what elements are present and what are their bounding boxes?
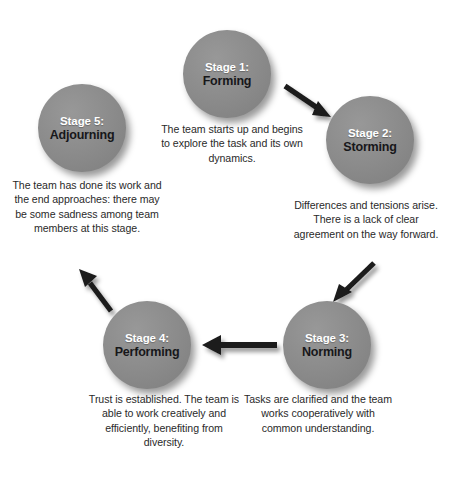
stage-1-circle[interactable]: Stage 1: Forming (183, 30, 271, 118)
arrow-stage2-to-stage3-icon (333, 263, 374, 302)
stage-5-caption: The team has done its work and the end a… (8, 178, 166, 236)
team-development-cycle-diagram: Stage 1: Forming The team starts up and … (0, 0, 449, 481)
stage-2-name: Storming (343, 140, 396, 155)
stage-3-circle[interactable]: Stage 3: Norming (283, 301, 371, 389)
stage-2-circle[interactable]: Stage 2: Storming (326, 96, 414, 184)
stage-1-name: Forming (203, 74, 252, 89)
stage-5-circle[interactable]: Stage 5: Adjourning (38, 84, 126, 172)
stage-3-number-label: Stage 3: (305, 331, 349, 345)
stage-4-caption: Trust is established. The team is able t… (84, 392, 244, 450)
stage-4-name: Performing (115, 345, 180, 360)
stage-1-caption: The team starts up and begins to explore… (157, 122, 307, 165)
arrow-stage3-to-stage4-icon (202, 335, 277, 355)
stage-1-number-label: Stage 1: (205, 60, 249, 74)
stage-5-number-label: Stage 5: (60, 114, 104, 128)
arrow-stage1-to-stage2-icon (285, 86, 331, 117)
stage-5-name: Adjourning (50, 128, 115, 143)
stage-2-caption: Differences and tensions arise. There is… (290, 198, 442, 241)
stage-4-circle[interactable]: Stage 4: Performing (103, 301, 191, 389)
stage-4-number-label: Stage 4: (125, 331, 169, 345)
stage-3-name: Norming (302, 345, 352, 360)
stage-2-number-label: Stage 2: (348, 126, 392, 140)
arrow-stage4-to-stage5-icon (79, 269, 111, 311)
stage-3-caption: Tasks are clarified and the team works c… (242, 392, 394, 435)
